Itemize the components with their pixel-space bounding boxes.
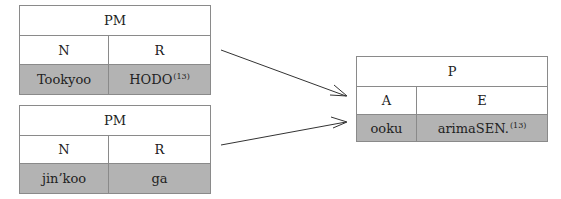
arrows-layer [0, 0, 561, 199]
arrow-pm1-to-p [221, 50, 347, 96]
arrow-pm2-to-p [221, 117, 347, 145]
